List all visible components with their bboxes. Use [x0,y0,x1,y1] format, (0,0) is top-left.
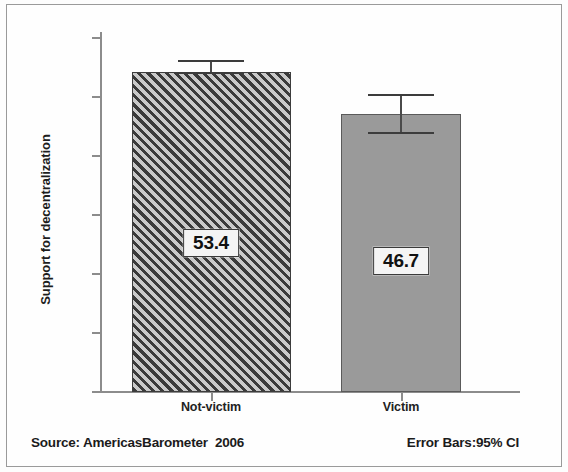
y-tick-mark [92,273,101,275]
chart-figure: Support for decentralization 60.0 50.0 4… [0,0,568,472]
y-tick-mark [92,214,101,216]
y-tick-mark [92,96,101,98]
y-tick-mark [92,332,101,334]
error-bar-cap-upper [178,60,244,62]
error-bar-cap-upper [368,94,434,96]
y-axis-title: Support for decentralization [38,90,53,350]
y-tick-mark [92,155,101,157]
error-bar-victim [368,94,434,134]
x-axis-label-victim: Victim [383,400,420,414]
x-axis-label-not-victim: Not-victim [181,400,241,414]
source-note: Source: AmericasBarometer 2006 [31,435,244,450]
error-bars-note: Error Bars:95% CI [407,435,519,450]
figure-footer: Source: AmericasBarometer 2006 Error Bar… [7,428,561,456]
error-bar-cap-lower [368,132,434,134]
plot-area: Support for decentralization 60.0 50.0 4… [0,0,568,472]
y-axis-line [100,32,102,393]
error-bar-not-victim [178,60,244,74]
error-bar-stem [400,94,402,134]
y-tick-mark [92,391,101,393]
value-label-victim: 46.7 [373,247,429,275]
value-label-not-victim: 53.4 [183,229,239,257]
y-tick-mark [92,37,101,39]
error-bar-cap-lower [178,72,244,74]
